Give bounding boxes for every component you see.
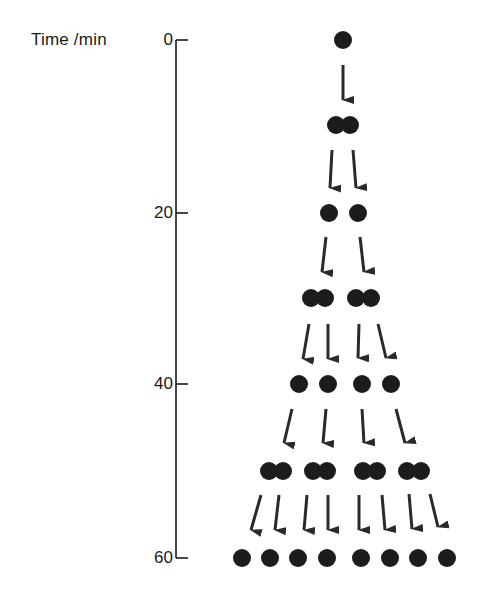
cell-division-diagram: Time /min 0204060 — [0, 0, 486, 589]
generation-row-10min — [327, 116, 359, 134]
dividing-cell-icon — [318, 462, 336, 480]
down-arrow-icon — [251, 495, 261, 530]
time-axis — [176, 40, 188, 558]
cell-icon — [381, 549, 399, 567]
cell-icon — [349, 204, 367, 222]
cell-icon — [352, 549, 370, 567]
generation-row-60min — [233, 549, 456, 567]
down-arrow-icon — [353, 150, 356, 188]
dividing-cell-icon — [316, 289, 334, 307]
down-arrow-icon — [362, 409, 364, 443]
down-arrow-icon — [323, 409, 326, 443]
down-arrow-icon — [330, 150, 332, 188]
down-arrow-icon — [304, 495, 307, 530]
dividing-cell-icon — [368, 462, 386, 480]
down-arrow-icon — [409, 494, 412, 529]
cell-icon — [353, 375, 371, 393]
cell-icon — [290, 375, 308, 393]
down-arrow-icon — [378, 324, 386, 358]
down-arrow-icon — [430, 494, 438, 527]
cell-icon — [261, 549, 279, 567]
cell-icon — [438, 549, 456, 567]
dividing-cell-icon — [412, 462, 430, 480]
cell-icon — [320, 204, 338, 222]
down-arrow-icon — [275, 495, 279, 530]
cell-icon — [289, 549, 307, 567]
diagram-canvas — [0, 0, 486, 589]
down-arrow-icon — [396, 409, 405, 443]
down-arrow-icon — [360, 237, 364, 272]
cell-icon — [409, 549, 427, 567]
dividing-cell-icon — [362, 289, 380, 307]
dividing-cell-icon — [341, 116, 359, 134]
cell-icon — [319, 375, 337, 393]
cell-icon — [318, 549, 336, 567]
cell-icon — [334, 31, 352, 49]
generation-row-40min — [290, 375, 400, 393]
cell-icon — [382, 375, 400, 393]
generation-row-20min — [320, 204, 367, 222]
cells — [233, 31, 456, 567]
generation-row-50min — [260, 462, 430, 480]
generation-row-30min — [302, 289, 380, 307]
down-arrow-icon — [358, 324, 359, 358]
cell-icon — [233, 549, 251, 567]
generation-row-0min — [334, 31, 352, 49]
down-arrow-icon — [303, 324, 309, 359]
down-arrow-icon — [284, 409, 292, 443]
dividing-cell-icon — [274, 462, 292, 480]
division-arrows — [251, 65, 438, 530]
down-arrow-icon — [322, 237, 326, 272]
down-arrow-icon — [382, 495, 385, 530]
